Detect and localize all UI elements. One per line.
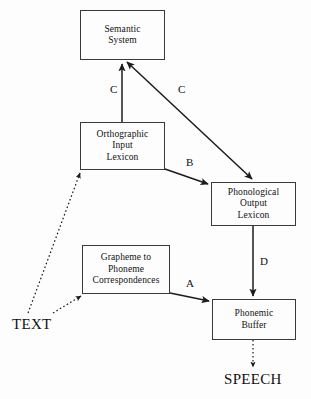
edge-label-c-left: C — [110, 84, 117, 95]
node-semantic-system-label: Semantic System — [104, 24, 140, 47]
diagram-canvas: Semantic System Orthographic Input Lexic… — [0, 0, 311, 399]
node-grapheme-phoneme-correspondences[interactable]: Grapheme to Phoneme Correspondences — [82, 245, 170, 294]
node-phonemic-buffer[interactable]: Phonemic Buffer — [212, 299, 296, 340]
node-phonological-output-lexicon-label: Phonological Output Lexicon — [228, 187, 279, 222]
edge-label-a: A — [186, 278, 194, 289]
node-phonological-output-lexicon[interactable]: Phonological Output Lexicon — [211, 182, 296, 226]
terminal-text-label: TEXT — [12, 316, 52, 332]
edge-grapheme-to-buffer — [170, 293, 209, 301]
terminal-speech-label: SPEECH — [224, 371, 282, 387]
edge-text-to-grapheme — [53, 296, 81, 313]
node-grapheme-phoneme-correspondences-label: Grapheme to Phoneme Correspondences — [93, 252, 160, 287]
node-orthographic-input-lexicon[interactable]: Orthographic Input Lexicon — [80, 122, 165, 170]
node-orthographic-input-lexicon-label: Orthographic Input Lexicon — [97, 129, 149, 164]
edge-text-to-orthographic — [28, 173, 80, 313]
node-semantic-system[interactable]: Semantic System — [80, 10, 165, 60]
edge-label-d: D — [260, 256, 268, 267]
node-phonemic-buffer-label: Phonemic Buffer — [235, 308, 274, 331]
edge-label-b: B — [186, 157, 193, 168]
edge-label-c-right: C — [178, 84, 185, 95]
edge-orthographic-to-phonological — [165, 169, 208, 184]
